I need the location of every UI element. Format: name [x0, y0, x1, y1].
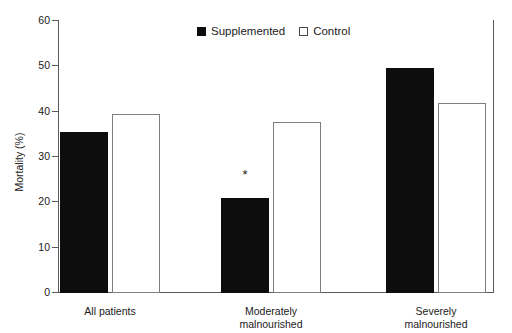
y-tick-label-0: 0 [44, 286, 50, 298]
y-tick-60 [52, 20, 58, 21]
y-tick-0 [52, 292, 58, 293]
y-axis-line [58, 20, 59, 293]
y-tick-label-30: 30 [38, 150, 50, 162]
category-label-all-patients: All patients [84, 305, 135, 318]
y-tick-50 [52, 65, 58, 66]
y-tick-10 [52, 247, 58, 248]
category-label-all-patients-line1: All patients [84, 305, 135, 318]
bar-supplemented-moderately-malnourished [221, 198, 269, 293]
y-axis-title: Mortality (%) [13, 107, 25, 217]
bar-control-all-patients [112, 114, 160, 293]
y-tick-label-20: 20 [38, 195, 50, 207]
category-label-moderately-malnourished-line1: Moderately [239, 305, 302, 318]
y-tick-label-60: 60 [38, 14, 50, 26]
y-tick-20 [52, 201, 58, 202]
category-label-moderately-malnourished-line2: malnourished [239, 318, 302, 331]
significance-asterisk-moderately-malnourished: * [242, 168, 247, 181]
bar-control-severely-malnourished [438, 103, 486, 293]
category-label-severely-malnourished-line2: malnourished [404, 318, 467, 331]
bar-supplemented-all-patients [60, 132, 108, 293]
right-frame-line [493, 20, 494, 293]
y-tick-label-50: 50 [38, 59, 50, 71]
y-tick-30 [52, 156, 58, 157]
bar-supplemented-severely-malnourished [386, 68, 434, 293]
category-label-severely-malnourished-line1: Severely [404, 305, 467, 318]
mortality-bar-chart: Supplemented Control 60 50 40 30 20 [0, 0, 512, 333]
plot-area: 60 50 40 30 20 10 0 Mortality (%) [0, 0, 512, 333]
y-tick-40 [52, 111, 58, 112]
category-label-moderately-malnourished: Moderately malnourished [239, 305, 302, 331]
y-tick-label-10: 10 [38, 241, 50, 253]
category-label-severely-malnourished: Severely malnourished [404, 305, 467, 331]
y-tick-label-40: 40 [38, 105, 50, 117]
bar-control-moderately-malnourished [273, 122, 321, 293]
